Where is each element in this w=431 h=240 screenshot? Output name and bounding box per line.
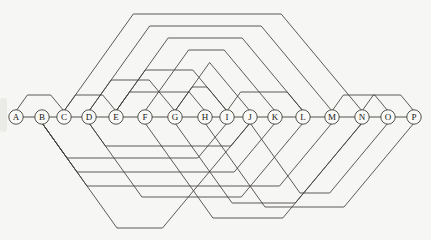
node-F: F xyxy=(138,110,152,124)
node-N: N xyxy=(355,110,369,124)
arc-D-G xyxy=(89,80,175,111)
node-label-P: P xyxy=(411,112,416,122)
node-label-K: K xyxy=(272,112,279,122)
arc-I-L xyxy=(227,92,303,111)
node-C: C xyxy=(57,110,71,124)
node-I: I xyxy=(220,110,234,124)
node-label-O: O xyxy=(385,112,392,122)
arc-E-H xyxy=(116,92,205,111)
node-label-J: J xyxy=(248,112,252,122)
node-label-B: B xyxy=(39,112,45,122)
node-J: J xyxy=(243,110,257,124)
arc-A-C xyxy=(16,95,64,111)
node-label-E: E xyxy=(113,112,119,122)
arc-C-E xyxy=(64,95,116,111)
arc-F-K xyxy=(145,50,275,111)
node-L: L xyxy=(296,110,310,124)
node-M: M xyxy=(325,110,339,124)
node-label-L: L xyxy=(300,112,306,122)
arc-E-I xyxy=(116,70,227,111)
node-E: E xyxy=(109,110,123,124)
node-label-M: M xyxy=(328,112,336,122)
arc-H-P xyxy=(205,123,414,207)
arc-G-I xyxy=(175,87,227,111)
node-label-H: H xyxy=(202,112,209,122)
node-O: O xyxy=(381,110,395,124)
arc-E-L xyxy=(116,38,303,111)
arc-G-N xyxy=(175,123,362,203)
scanned-diagram-page: ABCDEFGHIJKLMNOP xyxy=(0,0,431,240)
node-H: H xyxy=(198,110,212,124)
arc-C-N xyxy=(64,14,362,111)
arc-J-O xyxy=(250,123,388,193)
arc-B-K xyxy=(42,123,275,172)
arc-N-P xyxy=(362,95,414,111)
arc-B-J xyxy=(42,123,250,228)
node-label-I: I xyxy=(226,112,229,122)
node-label-F: F xyxy=(142,112,147,122)
node-G: G xyxy=(168,110,182,124)
node-label-A: A xyxy=(13,112,20,122)
node-A: A xyxy=(9,110,23,124)
node-label-G: G xyxy=(172,112,179,122)
graph-diagram: ABCDEFGHIJKLMNOP xyxy=(0,0,431,240)
node-K: K xyxy=(268,110,282,124)
scan-artifact xyxy=(0,98,7,132)
node-label-D: D xyxy=(86,112,93,122)
node-label-N: N xyxy=(359,112,366,122)
arc-F-N xyxy=(145,123,362,218)
node-P: P xyxy=(407,110,421,124)
arc-D-J xyxy=(89,123,250,146)
arc-B-I xyxy=(42,123,227,158)
node-label-C: C xyxy=(61,112,67,122)
node-D: D xyxy=(82,110,96,124)
node-B: B xyxy=(35,110,49,124)
